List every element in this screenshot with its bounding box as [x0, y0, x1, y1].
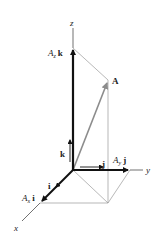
x-axis — [22, 203, 40, 221]
resultant-vector-A — [73, 83, 107, 170]
y-axis-label: y — [145, 165, 150, 175]
vector-A-label: A — [112, 76, 119, 86]
component-x-label: Axi — [21, 193, 35, 204]
construction-lines — [40, 48, 130, 203]
unit-vector-k-label: k — [60, 149, 65, 159]
vector-components-diagram: z y x A Azk Ayj Axi k j i — [0, 0, 164, 237]
unit-vector-j-label: j — [101, 159, 105, 169]
unit-vector-i-label: i — [48, 181, 51, 191]
x-axis-label: x — [13, 223, 18, 233]
component-y-label: Ayj — [112, 155, 126, 166]
z-axis-label: z — [69, 18, 74, 28]
unit-vector-i-arrow — [56, 175, 68, 187]
component-z-label: Azk — [47, 48, 63, 59]
